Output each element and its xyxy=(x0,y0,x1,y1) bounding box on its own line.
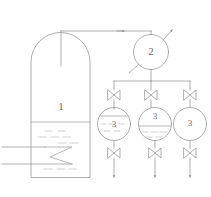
separator-vessel-label: 2 xyxy=(148,45,154,57)
storage-tank-label: 1 xyxy=(58,100,64,112)
receiver-vessel-middle-liquid xyxy=(137,126,173,137)
separator-inlet-line xyxy=(129,64,139,73)
flow-diagram-canvas: 1 2 3 3 3 xyxy=(0,0,211,197)
storage-tank-liquid-hatch xyxy=(38,131,78,169)
inlet-valve-right[interactable] xyxy=(184,90,196,108)
inlet-valve-left[interactable] xyxy=(108,90,120,108)
distribution-header-line xyxy=(114,81,190,90)
receiver-vessel-left-label: 3 xyxy=(112,119,117,129)
inlet-valve-middle[interactable] xyxy=(145,90,157,108)
outlet-valve-right[interactable] xyxy=(184,148,196,158)
separator-outlet-arrow-icon xyxy=(163,30,172,40)
process-flow-diagram: 1 2 3 3 3 xyxy=(0,0,211,197)
outlet-valve-middle[interactable] xyxy=(149,148,161,158)
receiver-vessel-middle-label: 3 xyxy=(153,111,158,121)
storage-tank-heating-coil xyxy=(45,147,72,164)
receiver-vessel-right-label: 3 xyxy=(188,118,193,128)
outlet-valve-left[interactable] xyxy=(108,148,120,158)
